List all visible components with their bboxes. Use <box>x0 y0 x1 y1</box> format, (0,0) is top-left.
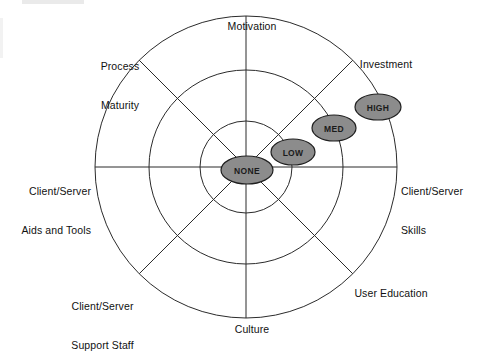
axis-label-cs-aids-tools-line1: Client/Server <box>4 185 91 198</box>
axis-label-investment: Investment <box>330 45 430 84</box>
axis-label-process-maturity-line2: Maturity <box>76 99 164 112</box>
marker-high[interactable]: HIGH <box>355 94 401 120</box>
axis-label-cs-aids-tools: Client/Server Aids and Tools <box>4 159 91 263</box>
axis-label-culture: Culture <box>206 310 286 349</box>
axis-label-cs-support-staff: Client/Server Support Staff <box>40 274 165 355</box>
marker-none[interactable]: NONE <box>221 156 273 184</box>
axis-label-cs-aids-tools-line2: Aids and Tools <box>4 224 91 237</box>
axis-label-motivation: Motivation <box>196 7 296 46</box>
marker-low[interactable]: LOW <box>271 139 315 165</box>
axis-label-motivation-text: Motivation <box>228 20 277 32</box>
marker-med[interactable]: MED <box>312 115 356 141</box>
axis-label-user-education: User Education <box>330 274 440 313</box>
marker-low-label: LOW <box>283 148 304 158</box>
axis-label-investment-text: Investment <box>360 58 412 70</box>
radar-markers: HIGH MED LOW NONE <box>221 94 401 184</box>
spoke-cs-support <box>139 167 246 274</box>
axis-label-user-education-text: User Education <box>354 287 427 299</box>
axis-label-cs-skills: Client/Server Skills <box>401 159 485 263</box>
marker-high-label: HIGH <box>367 103 389 113</box>
spoke-user-education <box>246 167 353 274</box>
marker-med-label: MED <box>324 124 344 134</box>
axis-label-process-maturity: Process Maturity <box>76 34 164 138</box>
axis-label-cs-support-staff-line1: Client/Server <box>40 300 165 313</box>
axis-label-culture-text: Culture <box>235 323 270 335</box>
scan-artifact-top <box>22 0 84 4</box>
axis-label-process-maturity-line1: Process <box>76 60 164 73</box>
marker-none-label: NONE <box>234 166 260 176</box>
axis-label-cs-support-staff-line2: Support Staff <box>40 339 165 352</box>
scan-artifact-left <box>0 18 3 58</box>
axis-label-cs-skills-line1: Client/Server <box>401 185 485 198</box>
axis-label-cs-skills-line2: Skills <box>401 224 485 237</box>
